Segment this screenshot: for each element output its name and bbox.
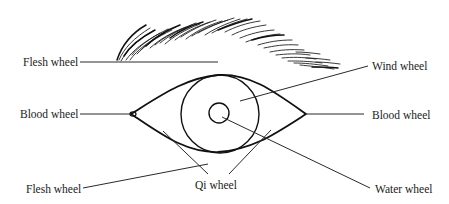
five-wheels-eye-diagram: Flesh wheel Wind wheel Blood wheel Blood… [0, 0, 449, 204]
label-wind-wheel: Wind wheel [372, 60, 427, 72]
label-qi-wheel: Qi wheel [195, 179, 237, 191]
leader-qi-left [163, 131, 208, 174]
leader-qi-right [229, 130, 271, 174]
leader-water [222, 117, 370, 188]
iris [181, 75, 259, 153]
eyelid-outline [131, 75, 306, 152]
label-flesh-wheel-top: Flesh wheel [23, 56, 78, 68]
pupil [209, 103, 229, 123]
label-blood-wheel-left: Blood wheel [20, 108, 78, 120]
label-blood-wheel-right: Blood wheel [372, 109, 430, 121]
label-water-wheel: Water wheel [375, 183, 433, 195]
label-flesh-wheel-bottom: Flesh wheel [26, 183, 81, 195]
leader-flesh-bottom [83, 164, 208, 188]
eyebrow [117, 18, 340, 69]
